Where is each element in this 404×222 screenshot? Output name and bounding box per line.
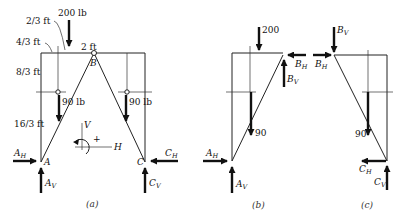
load-200-label: 200 lb xyxy=(58,8,87,18)
c-member-BC xyxy=(334,55,387,161)
panel-c: BV BH 90 CH CV (c) xyxy=(313,25,393,210)
member-AB xyxy=(41,53,94,162)
label-C: C xyxy=(137,157,144,167)
sign-plus: + xyxy=(93,134,101,144)
axis-H-label: H xyxy=(113,142,122,152)
b-reaction-AH-label: AH xyxy=(205,148,219,160)
load-90-left-label: 90 lb xyxy=(62,97,85,107)
dim-8-3-ft: 8/3 ft xyxy=(16,67,41,77)
b-reaction-BH-label: BH xyxy=(294,59,308,71)
b-reaction-BV-label: BV xyxy=(286,74,300,86)
dim-2-3-ft: 2/3 ft xyxy=(26,16,51,26)
panel-b: 200 90 BH BV AH AV (b) xyxy=(203,25,308,210)
dim-2-ft: 2 ft xyxy=(81,42,97,52)
caption-a: (a) xyxy=(86,199,99,209)
b-reaction-AV-label: AV xyxy=(235,179,249,191)
label-B: B xyxy=(89,58,97,68)
caption-c: (c) xyxy=(361,200,374,210)
three-hinged-frame-diagram: 200 lb 2/3 ft 4/3 ft 2 ft 8/3 ft 16/3 ft… xyxy=(0,0,404,222)
dim-16-3-ft: 16/3 ft xyxy=(14,119,44,129)
b-member-AB xyxy=(232,55,283,161)
dim-4-3-leader xyxy=(45,43,52,52)
reaction-AV-label: AV xyxy=(44,178,58,190)
c-reaction-CH-label: CH xyxy=(359,164,372,176)
panel-a: 200 lb 2/3 ft 4/3 ft 2 ft 8/3 ft 16/3 ft… xyxy=(13,8,178,209)
caption-b: (b) xyxy=(252,200,265,210)
dim-4-3-ft: 4/3 ft xyxy=(16,37,41,47)
label-A: A xyxy=(43,157,51,167)
c-load-90-label: 90 xyxy=(355,129,367,139)
c-reaction-BV-label: BV xyxy=(336,25,350,37)
moment-arrowhead-icon xyxy=(73,139,79,145)
load-90-right-label: 90 lb xyxy=(129,97,152,107)
axis-V-label: V xyxy=(84,120,92,130)
pin-right-load xyxy=(125,90,129,94)
reaction-CV-label: CV xyxy=(149,178,162,190)
pin-left-load xyxy=(56,90,60,94)
c-reaction-BH-label: BH xyxy=(314,59,328,71)
dim-2-3-leader xyxy=(54,21,65,50)
c-reaction-CV-label: CV xyxy=(374,177,387,189)
reaction-AH-label: AH xyxy=(13,148,27,160)
b-load-200-label: 200 xyxy=(262,25,279,35)
reaction-CH-label: CH xyxy=(165,148,178,160)
b-load-90-label: 90 xyxy=(255,128,267,138)
